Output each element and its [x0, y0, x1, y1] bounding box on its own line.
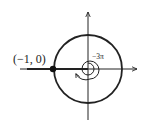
point-marker — [50, 66, 56, 72]
angle-label: −3π — [92, 52, 104, 61]
unit-circle-diagram: (−1, 0) −3π — [0, 0, 149, 126]
point-label: (−1, 0) — [13, 52, 46, 66]
